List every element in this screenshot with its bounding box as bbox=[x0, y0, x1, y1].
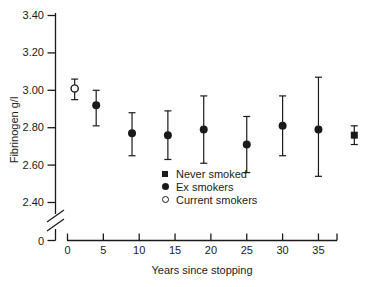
x-tick-label: 30 bbox=[276, 244, 288, 256]
legend: Never smoked Ex smokers Current smokers bbox=[158, 167, 257, 206]
legend-label: Current smokers bbox=[176, 194, 257, 206]
data-point-ex-smokers bbox=[243, 141, 251, 149]
data-point-ex-smokers bbox=[92, 101, 100, 109]
y-axis-title: Fibrinogen g/l bbox=[8, 97, 20, 164]
data-point-never-smoked bbox=[351, 132, 358, 139]
y-tick-label: 2.60 bbox=[23, 159, 44, 171]
y-tick-label: 3.00 bbox=[23, 84, 44, 96]
y-tick-label: 3.20 bbox=[23, 46, 44, 58]
x-tick-label: 20 bbox=[205, 244, 217, 256]
legend-item-never-smoked: Never smoked bbox=[158, 167, 257, 180]
data-point-ex-smokers bbox=[164, 131, 172, 139]
x-tick-label: 5 bbox=[100, 244, 106, 256]
data-point-ex-smokers bbox=[128, 129, 136, 137]
data-point-ex-smokers bbox=[279, 122, 287, 130]
legend-label: Never smoked bbox=[176, 168, 247, 180]
y-tick-label: 2.40 bbox=[23, 196, 44, 208]
fibrinogen-scatter-chart: 3.403.203.002.802.602.40005101520253035 bbox=[0, 0, 365, 287]
y-tick-label: 3.40 bbox=[23, 9, 44, 21]
filled-circle-icon bbox=[158, 183, 172, 190]
x-tick-label: 35 bbox=[312, 244, 324, 256]
legend-item-current-smokers: Current smokers bbox=[158, 193, 257, 206]
y-tick-label: 2.80 bbox=[23, 121, 44, 133]
x-tick-label: 0 bbox=[64, 244, 70, 256]
x-tick-label: 25 bbox=[241, 244, 253, 256]
y-tick-label: 0 bbox=[38, 235, 44, 247]
data-point-current-smokers bbox=[71, 85, 78, 92]
legend-item-ex-smokers: Ex smokers bbox=[158, 180, 257, 193]
x-tick-label: 10 bbox=[133, 244, 145, 256]
legend-label: Ex smokers bbox=[176, 181, 233, 193]
x-tick-label: 15 bbox=[169, 244, 181, 256]
data-point-ex-smokers bbox=[314, 126, 322, 134]
x-axis-title: Years since stopping bbox=[67, 264, 337, 276]
figure: 3.403.203.002.802.602.40005101520253035 … bbox=[0, 0, 365, 287]
data-point-ex-smokers bbox=[200, 126, 208, 134]
filled-square-icon bbox=[158, 171, 172, 177]
open-circle-icon bbox=[158, 196, 172, 203]
